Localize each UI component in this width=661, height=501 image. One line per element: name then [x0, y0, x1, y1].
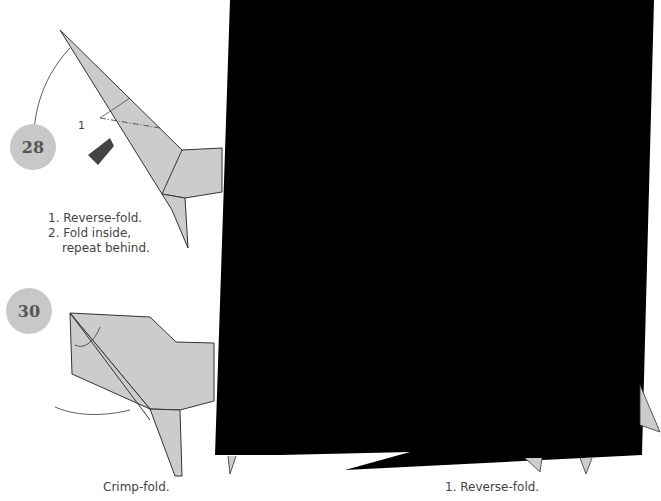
- step-32-instruction: 1. Reverse-fold.: [445, 480, 539, 495]
- origami-diagram-page: 28 1 1. Reverse-fold. 2. Fold inside, re…: [0, 0, 661, 501]
- step-30-instruction: Crimp-fold.: [103, 480, 170, 495]
- step-number-badge: 30: [6, 288, 52, 334]
- step-28-instruction-2: 2. Fold inside,: [48, 226, 131, 241]
- redaction-block: [215, 0, 654, 470]
- fold-marker-label: 1: [78, 118, 85, 133]
- step-30-figure: [55, 313, 214, 476]
- step-28-instruction-3: repeat behind.: [62, 241, 150, 256]
- step-number-badge: 28: [10, 124, 56, 170]
- step-28-instruction-1: 1. Reverse-fold.: [48, 211, 142, 226]
